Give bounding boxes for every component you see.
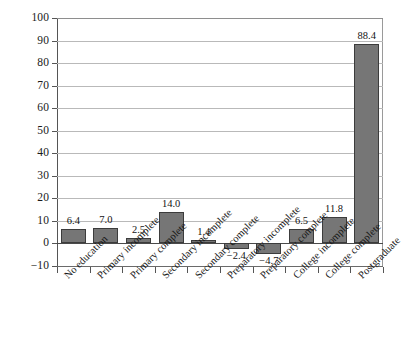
x-axis-tick-mark bbox=[187, 267, 188, 273]
y-axis-tick-mark bbox=[52, 86, 57, 87]
x-axis-tick-mark bbox=[383, 267, 384, 273]
y-axis-tick-label: 70 bbox=[13, 80, 49, 92]
y-axis-tick-mark bbox=[52, 153, 57, 154]
gridline bbox=[57, 108, 383, 109]
x-axis-tick-mark bbox=[90, 267, 91, 273]
gridline bbox=[57, 176, 383, 177]
y-axis-tick-mark bbox=[52, 41, 57, 42]
x-axis-tick-mark bbox=[57, 267, 58, 273]
y-axis-tick-label: −10 bbox=[13, 260, 49, 272]
y-axis-tick-mark bbox=[52, 198, 57, 199]
y-axis-tick-label: 20 bbox=[13, 192, 49, 204]
gridline bbox=[57, 18, 383, 19]
x-axis-tick-mark bbox=[220, 267, 221, 273]
bar[interactable] bbox=[61, 229, 86, 243]
y-axis-tick-mark bbox=[52, 18, 57, 19]
y-axis-tick-label: 40 bbox=[13, 147, 49, 159]
bar-value-label: 88.4 bbox=[345, 31, 389, 42]
y-axis-tick-mark bbox=[52, 176, 57, 177]
gridline bbox=[57, 41, 383, 42]
bar[interactable] bbox=[354, 44, 379, 243]
x-axis-tick-mark bbox=[155, 267, 156, 273]
y-axis-tick-label: 0 bbox=[13, 237, 49, 249]
y-axis-tick-label: 90 bbox=[13, 35, 49, 47]
y-axis-tick-label: 30 bbox=[13, 170, 49, 182]
bar-value-label: 7.0 bbox=[84, 215, 128, 226]
gridline bbox=[57, 153, 383, 154]
y-axis-tick-label: 60 bbox=[13, 102, 49, 114]
x-axis-tick-mark bbox=[253, 267, 254, 273]
bar-value-label: 14.0 bbox=[149, 199, 193, 210]
x-axis-tick-mark bbox=[318, 267, 319, 273]
y-axis-tick-label: 100 bbox=[13, 12, 49, 24]
gridline bbox=[57, 63, 383, 64]
y-axis-tick-mark bbox=[52, 108, 57, 109]
x-axis-tick-mark bbox=[122, 267, 123, 273]
y-axis-tick-label: 80 bbox=[13, 57, 49, 69]
gridline bbox=[57, 86, 383, 87]
y-axis-tick-mark bbox=[52, 243, 57, 244]
y-axis-tick-label: 10 bbox=[13, 215, 49, 227]
gridline bbox=[57, 131, 383, 132]
y-axis-tick-label: 50 bbox=[13, 125, 49, 137]
y-axis-tick-mark bbox=[52, 63, 57, 64]
gridline bbox=[57, 198, 383, 199]
y-axis-tick-mark bbox=[52, 131, 57, 132]
x-axis-tick-mark bbox=[285, 267, 286, 273]
x-axis-tick-mark bbox=[350, 267, 351, 273]
